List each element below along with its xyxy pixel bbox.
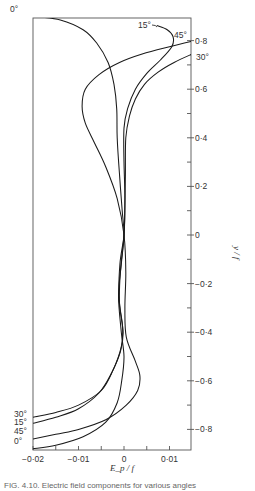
curve-label-45deg-top: 45° bbox=[174, 30, 187, 40]
curve-45deg bbox=[33, 41, 192, 439]
curve-15deg bbox=[33, 26, 174, 424]
y-tick-label: −0·2 bbox=[195, 279, 213, 289]
y-tick-label: −0·6 bbox=[195, 376, 213, 386]
x-axis-title: E_p / f bbox=[109, 463, 135, 473]
y-tick-label: 0·6 bbox=[195, 84, 208, 94]
curves bbox=[33, 16, 192, 449]
label-leader-15deg bbox=[152, 25, 157, 27]
curve-label-0deg-top: 0° bbox=[10, 4, 18, 14]
curve-label-45deg-bottom: 45° bbox=[14, 426, 27, 436]
y-tick-label: 0·8 bbox=[195, 36, 208, 46]
curve-label-30deg-top: 30° bbox=[196, 52, 209, 62]
curve-label-30deg-bottom: 30° bbox=[14, 409, 27, 419]
figure-caption: FIG. 4.10. Electric field components for… bbox=[4, 481, 196, 490]
curve-30deg bbox=[33, 54, 192, 417]
curve-labels: 0°0°15°15°30°30°45°45° bbox=[10, 4, 209, 446]
field-component-chart: −0·02−0·0100·01 0·80·60·40·20−0·2−0·4−0·… bbox=[0, 0, 255, 491]
curve-label-15deg-top: 15° bbox=[138, 20, 151, 30]
y-tick-label: 0·4 bbox=[195, 133, 208, 143]
x-tick-label: −0·01 bbox=[68, 454, 90, 464]
plot-frame bbox=[33, 18, 191, 450]
y-tick-label: 0·2 bbox=[195, 181, 208, 191]
y-tick-label: −0·4 bbox=[195, 327, 213, 337]
curve-0deg bbox=[33, 16, 124, 449]
x-tick-label: 0·01 bbox=[161, 454, 178, 464]
y-tick-label: 0 bbox=[195, 230, 200, 240]
y-axis-title: y / f bbox=[232, 245, 242, 261]
curve-label-0deg-bottom: 0° bbox=[14, 436, 22, 446]
x-axis-ticks: −0·02−0·0100·01 bbox=[22, 446, 178, 464]
y-tick-label: −0·8 bbox=[195, 424, 213, 434]
x-tick-label: −0·02 bbox=[22, 454, 44, 464]
